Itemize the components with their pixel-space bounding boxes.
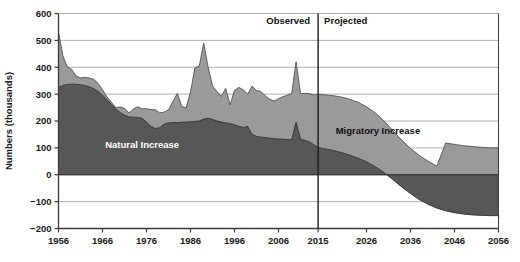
y-tick-label-300: 300 — [36, 89, 52, 100]
x-tick-label-2036: 2036 — [400, 235, 421, 246]
annotation-observed: Observed — [266, 15, 310, 26]
y-tick-label-500: 500 — [36, 35, 52, 46]
x-tick-label-2046: 2046 — [444, 235, 465, 246]
y-tick-label-400: 400 — [36, 62, 52, 73]
series-label-natural-increase: Natural Increase — [105, 139, 179, 150]
x-tick-label-1996: 1996 — [224, 235, 245, 246]
y-tick-label--100: −100 — [30, 196, 51, 207]
y-tick-label-100: 100 — [36, 142, 52, 153]
annotation-projected: Projected — [324, 15, 367, 26]
x-tick-label-1986: 1986 — [180, 235, 201, 246]
y-tick-label-200: 200 — [36, 115, 52, 126]
y-tick-label-0: 0 — [46, 169, 51, 180]
y-tick-label--200: −200 — [30, 223, 51, 234]
series-label-migratory-increase: Migratory Increase — [336, 125, 420, 136]
x-tick-label-2006: 2006 — [268, 235, 289, 246]
x-tick-label-2026: 2026 — [356, 235, 377, 246]
x-tick-label-1966: 1966 — [92, 235, 113, 246]
y-tick-label-600: 600 — [36, 8, 52, 19]
x-tick-label-2015: 2015 — [308, 235, 330, 246]
x-tick-label-2056: 2056 — [488, 235, 509, 246]
y-axis-title: Numbers (thousands) — [3, 72, 14, 170]
population-change-area-chart: 6005004003002001000−100−2001956196619761… — [0, 0, 520, 262]
x-tick-label-1956: 1956 — [48, 235, 69, 246]
x-tick-label-1976: 1976 — [136, 235, 157, 246]
chart-canvas: 6005004003002001000−100−2001956196619761… — [0, 0, 520, 262]
